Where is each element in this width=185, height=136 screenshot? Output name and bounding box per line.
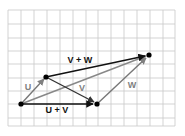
label-v: V [79, 83, 85, 93]
label-v-plus-w: V + W [68, 55, 93, 65]
point-u-plus-v-tip [94, 101, 99, 106]
point-u-plus-v-plus-w-tip [146, 52, 151, 57]
point-u-tip [43, 74, 48, 79]
vector-diagram: V + W U + V U V W [0, 0, 185, 136]
vector-v-plus-w [46, 56, 145, 77]
label-u: U [25, 82, 32, 92]
point-origin [18, 101, 23, 106]
vector-v [46, 77, 94, 102]
label-w: W [128, 80, 137, 90]
label-u-plus-v: U + V [46, 105, 69, 115]
